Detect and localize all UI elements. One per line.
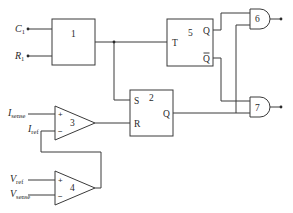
c4-minus: − [58,192,63,201]
c4-plus: + [58,176,63,185]
label-vref: Vref [10,173,24,185]
pin-q5: Q [203,26,210,36]
block-1-number: 1 [71,29,76,39]
pin-r: R [134,119,141,129]
pin-q2: Q [163,109,170,119]
block-1: 1 [52,19,95,65]
label-c1: C1 [15,23,25,35]
and-gate-6: 6 [250,9,270,29]
terminal-g7-out [280,106,283,109]
comparator-3: + − 3 [55,106,95,140]
wire-q5-to-g6 [213,13,250,30]
label-r1: R1 [14,50,24,62]
pin-qbar5: Q [203,54,210,64]
terminal-g6-out [280,18,283,21]
block-2-sr-latch: 2 S R Q [130,90,173,136]
gate-6-number: 6 [255,14,260,24]
comparator-3-number: 3 [70,118,75,128]
wire-qbar5-to-g7 [213,58,250,101]
terminal-r1 [27,55,30,58]
label-vsense: Vsense [10,188,30,200]
comparator-4: + − 4 [55,171,95,205]
junction-dot [113,41,116,44]
block-5-number: 5 [188,28,193,38]
block-5-t-flipflop: 5 T Q Q [167,19,213,66]
c3-minus: − [58,127,63,136]
label-iref: Iref [27,123,39,135]
terminal-c1 [27,28,30,31]
label-isense: Isense [7,107,26,119]
pin-s: S [134,96,139,106]
and-gate-7: 7 [250,97,270,117]
pin-t: T [172,38,178,48]
block-2-number: 2 [149,93,154,103]
c3-plus: + [58,110,63,119]
wire-g6-lower-input [236,25,250,113]
wire-junction-to-s [114,42,130,100]
comparator-4-number: 4 [70,183,75,193]
gate-7-number: 7 [255,103,260,113]
circuit-diagram: 1 5 T Q Q 2 S R Q 6 7 + − 3 + − 4 [0,0,293,213]
